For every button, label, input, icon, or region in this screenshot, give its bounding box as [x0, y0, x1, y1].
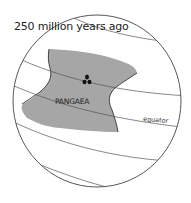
diagram-title: 250 million years ago	[14, 20, 129, 33]
equator-label: equator	[143, 115, 169, 125]
pangaea-landmass	[22, 49, 137, 132]
continent-label: PANGAEA	[55, 97, 89, 106]
